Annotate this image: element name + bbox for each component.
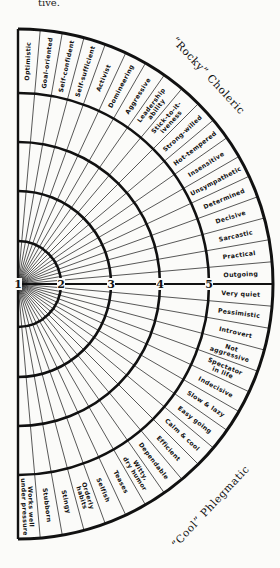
trait-label: Optimistic <box>23 42 33 81</box>
trait-sector: Stubborn <box>42 487 53 522</box>
spoke-line <box>18 284 249 392</box>
trait-sector: Sarcastic <box>218 228 253 242</box>
trait-label: Pessimistic <box>218 307 261 319</box>
trait-sector: Very quiet <box>221 289 260 299</box>
spoke-line <box>18 53 126 284</box>
trait-sector: Pessimistic <box>218 307 261 319</box>
trait-label: Sarcastic <box>218 228 253 242</box>
trait-sector: Outgoing <box>223 270 258 280</box>
trait-labels: OptimisticGoal-orientedSelf-confidentSel… <box>19 37 261 536</box>
trait-sector: Practical <box>222 249 256 260</box>
trait-label: Efficient <box>156 434 183 462</box>
trait-label: Stubborn <box>42 487 53 522</box>
trait-sector: Optimistic <box>23 42 33 81</box>
trait-label: under pressure <box>19 478 30 536</box>
trait-label: Practical <box>222 249 256 260</box>
trait-label: Determined <box>202 187 245 210</box>
ring-number: 2 <box>57 278 65 291</box>
trait-sector: Self-sufficient <box>73 45 96 98</box>
spoke-line <box>18 176 249 284</box>
trait-sector: Works wellunder pressure <box>19 478 36 536</box>
trait-sector: Goal-oriented <box>40 37 54 89</box>
trait-sector: Determined <box>202 187 245 210</box>
trait-label: Outgoing <box>223 270 258 280</box>
trait-sector: Stingy <box>60 489 73 514</box>
trait-label: Teases <box>112 469 130 495</box>
trait-label: Stingy <box>60 489 73 514</box>
temperament-wheel: OptimisticGoal-orientedSelf-confidentSel… <box>0 0 280 568</box>
trait-label: Very quiet <box>221 289 260 299</box>
ring-number: 3 <box>107 278 115 291</box>
trait-sector: Teases <box>112 469 130 495</box>
trait-sector: Introvert <box>218 325 253 339</box>
trait-sector: Efficient <box>156 434 183 462</box>
group-label-phlegmatic: “Cool” Phlegmatic <box>169 463 252 550</box>
trait-label: Introvert <box>218 325 253 339</box>
trait-label: Goal-oriented <box>40 37 54 89</box>
ring-number: 5 <box>205 278 213 291</box>
spoke-line <box>18 284 126 515</box>
ring-number: 1 <box>14 278 22 291</box>
trait-label: Self-sufficient <box>73 45 96 98</box>
ring-number: 4 <box>156 278 164 291</box>
